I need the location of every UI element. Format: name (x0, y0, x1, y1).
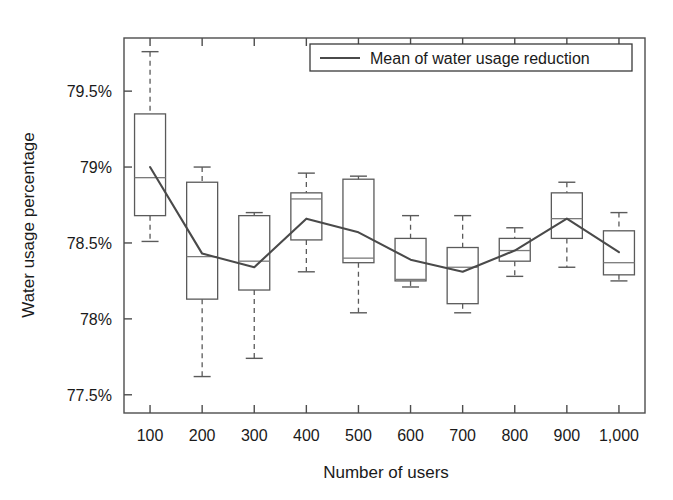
y-tick-label: 78% (80, 311, 112, 328)
x-tick-label: 700 (449, 427, 476, 444)
x-tick-label: 300 (241, 427, 268, 444)
x-tick-label: 500 (345, 427, 372, 444)
x-axis-title: Number of users (323, 463, 449, 482)
box-plot-figure: 79.5%79%78.5%78%77.5% 100200300400500600… (0, 0, 673, 500)
y-tick-label: 79.5% (67, 83, 112, 100)
x-tick-label: 900 (553, 427, 580, 444)
x-tick-label: 200 (189, 427, 216, 444)
x-tick-label: 400 (293, 427, 320, 444)
y-tick-label: 79% (80, 159, 112, 176)
y-tick-label: 78.5% (67, 235, 112, 252)
x-tick-label: 1,000 (599, 427, 639, 444)
legend-item-label: Mean of water usage reduction (370, 50, 590, 67)
x-tick-label: 600 (397, 427, 424, 444)
y-tick-label: 77.5% (67, 387, 112, 404)
legend: Mean of water usage reduction (310, 44, 632, 71)
x-tick-label: 100 (137, 427, 164, 444)
y-axis-title: Water usage percentage (19, 132, 38, 318)
x-tick-label: 800 (501, 427, 528, 444)
